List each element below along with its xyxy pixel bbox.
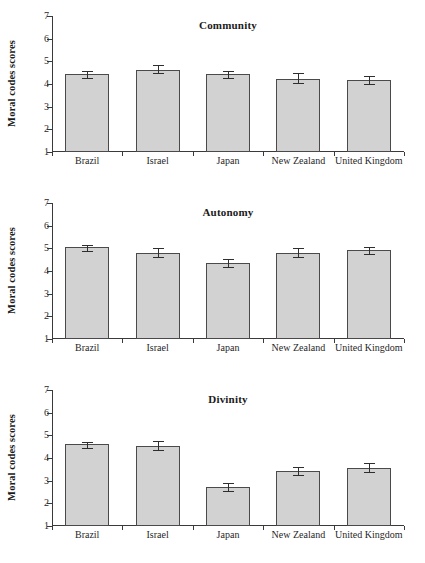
error-bar-cap-upper (364, 76, 375, 77)
error-bar-line (158, 441, 159, 450)
y-axis-tick-label: 1 (44, 334, 49, 344)
error-bar-cap-upper (82, 442, 93, 443)
y-axis-tick-label: 2 (44, 311, 49, 321)
error-bar-cap-lower (223, 491, 234, 492)
x-axis-label: Israel (146, 343, 168, 353)
x-axis-label: Israel (146, 530, 168, 540)
x-axis-label: New Zealand (272, 343, 326, 353)
y-axis-tick-label: 1 (44, 521, 49, 531)
y-axis-tick-label: 3 (44, 289, 49, 299)
error-bar-line (369, 76, 370, 84)
error-bar-cap-upper (153, 65, 164, 66)
x-axis-labels: BrazilIsraelJapanNew ZealandUnited Kingd… (52, 343, 404, 359)
figure-three-panel-bar-chart: Moral codes scores1234567CommunityBrazil… (0, 0, 425, 563)
error-bar-cap-lower (153, 450, 164, 451)
error-bar-cap-lower (223, 78, 234, 79)
y-axis-tick-label: 6 (44, 221, 49, 231)
error-bar-cap-upper (223, 259, 234, 260)
error-bar-line (298, 467, 299, 476)
x-axis-label: Brazil (75, 343, 99, 353)
x-axis-label: Japan (217, 343, 240, 353)
error-bar-line (298, 73, 299, 83)
error-bar-cap-upper (153, 248, 164, 249)
bar (65, 74, 109, 152)
bar (136, 70, 180, 153)
bar (136, 446, 180, 526)
error-bar-cap-lower (293, 257, 304, 258)
x-axis-label: Israel (146, 156, 168, 166)
error-bar-cap-upper (364, 247, 375, 248)
bar (206, 74, 250, 152)
y-axis-tick-label: 4 (44, 79, 49, 89)
plot-area: 1234567Community (52, 16, 404, 152)
y-axis-line (52, 390, 53, 526)
error-bar-cap-lower (364, 254, 375, 255)
y-axis-tick-label: 3 (44, 102, 49, 112)
bar (276, 79, 320, 152)
y-axis-title: Moral codes scores (2, 18, 20, 148)
error-bar-cap-upper (82, 245, 93, 246)
y-axis-title-text: Moral codes scores (6, 414, 17, 501)
y-axis-tick-label: 6 (44, 408, 49, 418)
bar (136, 253, 180, 339)
x-axis-label: New Zealand (272, 156, 326, 166)
x-axis-label: United Kingdom (335, 530, 403, 540)
y-axis-tick-label: 5 (44, 243, 49, 253)
error-bar-cap-upper (223, 71, 234, 72)
error-bar-line (228, 259, 229, 267)
error-bar-cap-lower (82, 251, 93, 252)
error-bar-cap-lower (364, 472, 375, 473)
y-axis-tick-label: 3 (44, 476, 49, 486)
y-axis-title: Moral codes scores (2, 205, 20, 335)
y-axis-tick-label: 6 (44, 34, 49, 44)
chart-panel-autonomy: Moral codes scores1234567AutonomyBrazilI… (0, 187, 425, 375)
error-bar-cap-upper (82, 71, 93, 72)
bar (347, 468, 391, 526)
y-axis-tick-label: 1 (44, 147, 49, 157)
error-bar-cap-lower (153, 73, 164, 74)
x-axis-tick (404, 339, 405, 343)
bar (65, 444, 109, 526)
error-bar-cap-lower (82, 448, 93, 449)
error-bar-cap-upper (364, 463, 375, 464)
error-bar-cap-lower (293, 475, 304, 476)
x-axis-label: United Kingdom (335, 156, 403, 166)
y-axis-tick-label: 4 (44, 266, 49, 276)
error-bar-cap-upper (223, 483, 234, 484)
x-axis-tick (404, 152, 405, 156)
y-axis-line (52, 203, 53, 339)
plot-area: 1234567Divinity (52, 390, 404, 526)
y-axis-line (52, 16, 53, 152)
panel-title: Autonomy (52, 206, 404, 218)
error-bar-cap-lower (293, 83, 304, 84)
error-bar-line (369, 247, 370, 255)
plot-area: 1234567Autonomy (52, 203, 404, 339)
y-axis-title-text: Moral codes scores (6, 40, 17, 127)
x-axis-labels: BrazilIsraelJapanNew ZealandUnited Kingd… (52, 156, 404, 172)
bar (276, 253, 320, 339)
y-axis-tick-label: 7 (44, 11, 49, 21)
x-axis-labels: BrazilIsraelJapanNew ZealandUnited Kingd… (52, 530, 404, 546)
x-axis-label: Japan (217, 156, 240, 166)
error-bar-cap-lower (153, 257, 164, 258)
y-axis-tick-label: 2 (44, 124, 49, 134)
x-axis-label: Brazil (75, 156, 99, 166)
y-axis-tick-label: 4 (44, 453, 49, 463)
y-axis-tick-label: 5 (44, 430, 49, 440)
panel-title: Community (52, 19, 404, 31)
error-bar-cap-upper (153, 441, 164, 442)
bar (206, 487, 250, 526)
x-axis-label: Japan (217, 530, 240, 540)
y-axis-tick-label: 7 (44, 198, 49, 208)
x-axis-tick (404, 526, 405, 530)
error-bar-line (158, 248, 159, 257)
error-bar-cap-upper (293, 73, 304, 74)
error-bar-cap-upper (293, 248, 304, 249)
error-bar-line (298, 248, 299, 257)
x-axis-label: New Zealand (272, 530, 326, 540)
error-bar-line (228, 483, 229, 491)
x-axis-label: United Kingdom (335, 343, 403, 353)
bar (347, 80, 391, 152)
y-axis-tick-label: 2 (44, 498, 49, 508)
error-bar-line (228, 71, 229, 78)
